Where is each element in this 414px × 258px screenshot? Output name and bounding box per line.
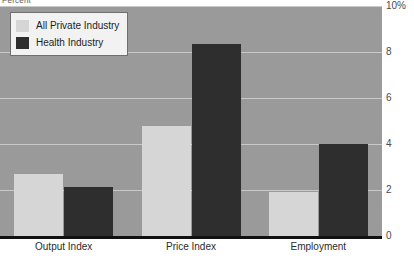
y-axis-tick-label: 10% (386, 1, 406, 11)
y-axis-tick-label: 8 (386, 47, 392, 57)
bar (192, 44, 241, 236)
bar-chart: Percent 0246810% Output IndexPrice Index… (0, 0, 414, 258)
gridline (0, 6, 382, 7)
legend-item-label: All Private Industry (36, 21, 119, 31)
bar (319, 144, 368, 236)
y-axis-tick-label: 2 (386, 185, 392, 195)
legend-item-health-industry: Health Industry (16, 34, 119, 51)
bar (269, 192, 318, 236)
legend-item-all-private-industry: All Private Industry (16, 17, 119, 34)
y-axis-tick-label: 0 (386, 231, 392, 241)
legend: All Private Industry Health Industry (10, 12, 128, 56)
x-axis-tick-label: Price Index (127, 241, 254, 252)
legend-swatch-icon (16, 20, 29, 32)
legend-swatch-icon (16, 37, 29, 49)
legend-item-label: Health Industry (36, 38, 103, 48)
x-axis-tick-label: Output Index (0, 241, 127, 252)
bar (14, 174, 63, 236)
x-axis-baseline (0, 236, 382, 239)
bar (64, 187, 113, 236)
bar (142, 126, 191, 236)
x-axis-tick-label: Employment (255, 241, 382, 252)
y-axis-caption: Percent (2, 0, 31, 3)
gridline (0, 98, 382, 99)
y-axis-tick-label: 6 (386, 93, 392, 103)
y-axis-tick-label: 4 (386, 139, 392, 149)
